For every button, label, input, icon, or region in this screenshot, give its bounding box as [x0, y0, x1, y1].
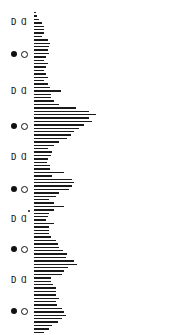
bar: [34, 223, 54, 224]
bar: [34, 247, 59, 248]
bar: [34, 291, 56, 292]
annotation-dot: [28, 210, 30, 212]
bar: [34, 216, 48, 217]
last-quarter-moon-icon: Ɑ: [21, 153, 26, 162]
bar: [34, 287, 56, 288]
bar: [34, 264, 77, 265]
bar: [34, 158, 48, 159]
bar: [34, 267, 68, 268]
bar: [34, 332, 44, 333]
bar: [34, 94, 51, 95]
bar: [34, 15, 37, 16]
bar: [34, 49, 48, 50]
bar: [34, 185, 72, 186]
bar: [34, 138, 67, 139]
bar: [34, 236, 51, 237]
new-moon-icon: [21, 51, 28, 58]
bar: [34, 90, 61, 91]
new-moon-icon: [21, 186, 28, 193]
bar: [34, 284, 53, 285]
bar: [34, 182, 74, 183]
bar: [34, 301, 56, 302]
bar: [34, 274, 62, 275]
bar: [34, 19, 39, 20]
bar: [34, 29, 44, 30]
bar: [34, 77, 48, 78]
bar: [34, 199, 49, 200]
bar: [34, 250, 63, 251]
bar: [34, 192, 59, 193]
bar: [34, 175, 52, 176]
full-moon-icon: [11, 246, 17, 252]
bar: [34, 253, 67, 254]
bar: [34, 141, 59, 142]
first-quarter-moon-icon: D: [11, 18, 16, 27]
bar: [34, 233, 49, 234]
first-quarter-moon-icon: D: [11, 276, 16, 285]
bar: [34, 145, 54, 146]
bar: [34, 206, 64, 207]
bar: [34, 168, 50, 169]
bar: [34, 318, 62, 319]
bar: [34, 104, 59, 105]
full-moon-icon: [11, 123, 17, 129]
bar: [34, 131, 74, 132]
new-moon-icon: [21, 246, 28, 253]
bar: [34, 277, 51, 278]
bar: [34, 179, 72, 180]
bar: [34, 26, 44, 27]
bar: [34, 107, 76, 108]
bar: [34, 73, 46, 74]
new-moon-icon: [21, 308, 28, 315]
bar: [34, 298, 59, 299]
bar: [34, 196, 56, 197]
bar: [34, 114, 96, 115]
first-quarter-moon-icon: D: [11, 215, 16, 224]
bar: [34, 32, 44, 33]
bar: [34, 134, 71, 135]
bar: [34, 83, 48, 84]
bar: [34, 70, 44, 71]
bar: [34, 315, 66, 316]
bar: [34, 209, 54, 210]
bar: [34, 22, 42, 23]
first-quarter-moon-icon: D: [11, 87, 16, 96]
full-moon-icon: [11, 51, 17, 57]
bar: [34, 321, 58, 322]
bar: [34, 148, 48, 149]
bar: [34, 243, 58, 244]
new-moon-icon: [21, 123, 28, 130]
bar: [34, 202, 54, 203]
last-quarter-moon-icon: Ɑ: [21, 215, 26, 224]
bar: [34, 100, 54, 101]
bar: [34, 12, 36, 13]
bar: [34, 230, 49, 231]
bar: [34, 43, 50, 44]
bar: [34, 325, 52, 326]
bar: [34, 155, 51, 156]
bar: [34, 213, 49, 214]
full-moon-icon: [11, 186, 17, 192]
bar: [34, 111, 89, 112]
first-quarter-moon-icon: D: [11, 153, 16, 162]
bar: [34, 121, 92, 122]
last-quarter-moon-icon: Ɑ: [21, 276, 26, 285]
bar: [34, 308, 62, 309]
bar: [34, 87, 50, 88]
bar: [34, 226, 49, 227]
bar: [34, 36, 42, 37]
bar: [34, 46, 49, 47]
bar: [34, 328, 49, 329]
bar: [34, 39, 48, 40]
bar: [34, 151, 52, 152]
bar: [34, 124, 84, 125]
bar: [34, 117, 89, 118]
bar: [34, 63, 48, 64]
bar: [34, 97, 51, 98]
lunar-bar-diagram: DⱭDⱭDⱭDⱭDⱭ: [0, 0, 170, 335]
bar: [34, 294, 56, 295]
bar: [34, 240, 56, 241]
full-moon-icon: [11, 308, 17, 314]
bar: [34, 60, 44, 61]
last-quarter-moon-icon: Ɑ: [21, 18, 26, 27]
